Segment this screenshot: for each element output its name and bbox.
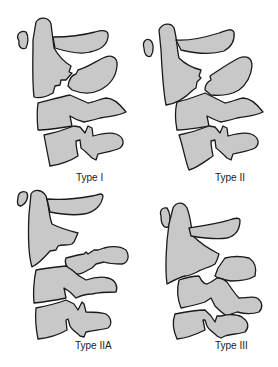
dens <box>159 24 201 105</box>
vertebrae-illustration-type-i <box>0 0 139 184</box>
vertebrae-illustration-type-iii <box>139 184 278 367</box>
c2-body <box>215 257 256 282</box>
atlas-anterior-arch <box>18 31 28 48</box>
c4-vertebra <box>173 310 248 339</box>
panel-type-ii: Type II <box>139 0 278 184</box>
c3-vertebra <box>37 95 126 130</box>
atlas-posterior-arch <box>53 31 108 54</box>
panel-label-type-i: Type I <box>76 172 103 183</box>
vertebrae-illustration-type-ii <box>139 0 278 184</box>
atlas-posterior-arch <box>189 218 240 239</box>
atlas-anterior-arch <box>143 39 153 56</box>
panel-label-type-ii: Type II <box>215 172 245 183</box>
panel-label-type-iia: Type IIA <box>75 340 112 351</box>
c2-body <box>65 247 128 274</box>
c3-vertebra <box>176 93 264 130</box>
c2-body <box>68 56 117 93</box>
panel-type-iii: Type III <box>139 184 278 367</box>
dens <box>166 203 219 284</box>
atlas-posterior-arch <box>47 194 103 215</box>
c4-vertebra <box>44 126 123 166</box>
vertebrae-illustration-type-iia <box>0 184 139 367</box>
panel-label-type-iii: Type III <box>215 340 248 351</box>
c4-vertebra <box>36 300 111 339</box>
c3-vertebra <box>178 276 262 316</box>
panel-type-iia: Type IIA <box>0 184 139 367</box>
atlas-posterior-arch <box>176 30 234 54</box>
dens <box>33 18 72 98</box>
c2-body <box>205 57 252 95</box>
c4-vertebra <box>179 126 258 170</box>
panel-type-i: Type I <box>0 0 139 184</box>
atlas-anterior-arch <box>17 192 27 206</box>
